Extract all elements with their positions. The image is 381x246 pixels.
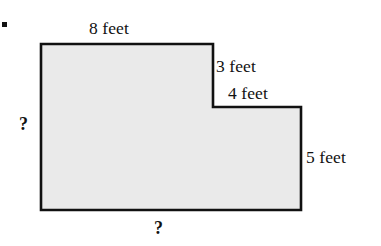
notched-rectangle-shape bbox=[41, 44, 301, 210]
dimension-label-step-horizontal: 4 feet bbox=[228, 84, 268, 103]
dimension-label-bottom-unknown: ? bbox=[154, 219, 163, 238]
geometry-figure: 8 feet 3 feet 4 feet 5 feet ? ? bbox=[0, 0, 381, 246]
dimension-label-top: 8 feet bbox=[89, 19, 129, 38]
dimension-label-step-vertical: 3 feet bbox=[216, 57, 256, 76]
shape-canvas bbox=[0, 0, 381, 246]
dimension-label-left-unknown: ? bbox=[19, 115, 28, 134]
dimension-label-right: 5 feet bbox=[306, 148, 346, 167]
